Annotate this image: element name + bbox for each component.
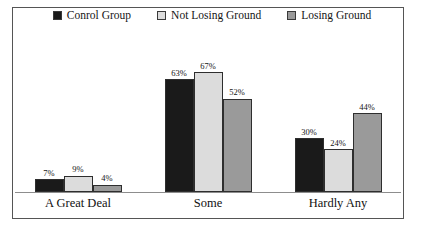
bar-group-bars: 63%67%52% bbox=[143, 8, 273, 192]
bar-group: 7%9%4% bbox=[13, 8, 143, 192]
bar-slot: 4% bbox=[93, 8, 122, 192]
bar-group-bars: 7%9%4% bbox=[13, 8, 143, 192]
category-labels: A Great DealSomeHardly Any bbox=[13, 197, 403, 210]
bar-slot: 44% bbox=[353, 8, 382, 192]
bar[interactable] bbox=[165, 79, 194, 192]
bar-groups: 7%9%4%63%67%52%30%24%44% bbox=[13, 8, 403, 192]
category-axis-line bbox=[15, 192, 401, 193]
category-label: Some bbox=[143, 197, 273, 210]
bar-group-bars: 30%24%44% bbox=[273, 8, 403, 192]
bar-value-label: 4% bbox=[85, 174, 129, 183]
bar[interactable] bbox=[324, 149, 353, 192]
bar[interactable] bbox=[223, 99, 252, 192]
bar-slot: 52% bbox=[223, 8, 252, 192]
bar-slot: 9% bbox=[64, 8, 93, 192]
bar[interactable] bbox=[35, 179, 64, 192]
bar[interactable] bbox=[93, 185, 122, 192]
bar-slot: 7% bbox=[35, 8, 64, 192]
bar-group: 30%24%44% bbox=[273, 8, 403, 192]
plot-area: 7%9%4%63%67%52%30%24%44% A Great DealSom… bbox=[13, 8, 403, 218]
bar-slot: 67% bbox=[194, 8, 223, 192]
bar-group: 63%67%52% bbox=[143, 8, 273, 192]
bar-chart: Conrol Group Not Losing Ground Losing Gr… bbox=[0, 0, 424, 233]
bar-value-label: 52% bbox=[215, 88, 259, 97]
bar[interactable] bbox=[353, 113, 382, 192]
bar-slot: 63% bbox=[165, 8, 194, 192]
category-label: Hardly Any bbox=[273, 197, 403, 210]
bar-slot: 30% bbox=[295, 8, 324, 192]
bar-slot: 24% bbox=[324, 8, 353, 192]
category-label: A Great Deal bbox=[13, 197, 143, 210]
bar-value-label: 44% bbox=[345, 103, 389, 112]
